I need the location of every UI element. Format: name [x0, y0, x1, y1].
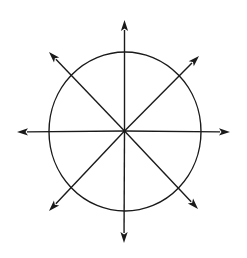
- arrow-shaft: [56, 59, 125, 131]
- diagram-canvas: [0, 0, 247, 258]
- arrow-ne-icon: [125, 56, 200, 131]
- arrow-s-icon: [120, 131, 127, 243]
- arrow-e-icon: [125, 128, 231, 135]
- arrow-shaft: [125, 63, 192, 131]
- arrow-w-icon: [17, 128, 125, 135]
- arrow-n-icon: [121, 20, 128, 131]
- arrowhead: [17, 128, 28, 135]
- arrow-se-icon: [125, 131, 199, 209]
- arrowhead: [219, 128, 230, 135]
- arrow-shaft: [125, 131, 192, 202]
- arrow-nw-icon: [49, 52, 125, 131]
- arrow-sw-icon: [49, 131, 125, 211]
- arrow-shaft: [56, 131, 125, 204]
- arrowhead: [121, 20, 128, 31]
- center-point: [123, 129, 126, 132]
- radial-arrows-diagram: [0, 0, 247, 258]
- arrowhead: [120, 232, 127, 243]
- arrow-shaft: [27, 131, 125, 132]
- arrow-shaft: [125, 131, 221, 132]
